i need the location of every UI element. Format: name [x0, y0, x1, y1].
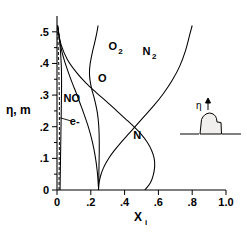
x-tick-label: .8 [188, 196, 197, 208]
x-tick-label: 1.0 [218, 196, 233, 208]
y-tick-label: .1 [40, 152, 49, 164]
y-axis-title: η, m [6, 103, 31, 117]
curve-label-O: O [98, 72, 107, 84]
y-tick-label: 0 [43, 184, 49, 196]
curve-label-e-: e- [70, 115, 80, 127]
x-tick-label: .2 [86, 196, 95, 208]
y-tick-label: .3 [40, 89, 49, 101]
curve-label-O2-subscript: 2 [118, 47, 123, 56]
curve-label-N: N [133, 129, 141, 141]
x-axis-title-main: X [134, 210, 142, 224]
curve-label-N2: N [143, 45, 151, 57]
inset-diagram: η [180, 98, 241, 134]
x-axis-title-sub: i [145, 218, 147, 227]
curve-label-O2: O [108, 40, 117, 52]
curve-O2 [89, 25, 99, 190]
curve-label-N2-subscript: 2 [152, 52, 157, 61]
y-tick-label: .4 [40, 57, 50, 69]
chart-canvas: 0.1.2.3.4.5 0.2.4.6.81.0 N2NO2ONOe- η, m… [0, 0, 247, 232]
y-tick-label: .2 [40, 121, 49, 133]
x-axis-ticks [57, 190, 226, 195]
x-tick-label: .6 [154, 196, 163, 208]
y-tick-label: .5 [40, 26, 49, 38]
curve-O [58, 25, 99, 186]
x-axis-tick-labels: 0.2.4.6.81.0 [54, 196, 234, 208]
x-tick-label: 0 [54, 196, 60, 208]
x-tick-label: .4 [120, 196, 130, 208]
inset-eta-label: η [196, 100, 202, 111]
curve-N [58, 25, 155, 190]
curve-e- [58, 26, 60, 190]
x-axis-title: X i [134, 210, 147, 227]
y-axis-tick-labels: 0.1.2.3.4.5 [40, 26, 50, 196]
blunt-body-silhouette [200, 113, 222, 134]
species-mole-fraction-chart: 0.1.2.3.4.5 0.2.4.6.81.0 N2NO2ONOe- η, m… [0, 0, 247, 232]
curve-labels-group: N2NO2ONOe- [64, 40, 157, 141]
data-curves-group [58, 25, 193, 190]
up-arrow-icon [206, 98, 211, 110]
curve-label-NO: NO [64, 92, 81, 104]
